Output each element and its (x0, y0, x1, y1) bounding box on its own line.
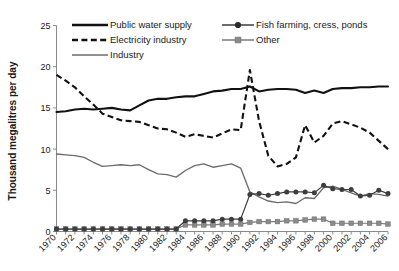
data-point-other (284, 218, 289, 223)
series-electricity-industry (57, 70, 389, 166)
y-tick-label: 20 (40, 62, 50, 72)
data-point-fish-farming (247, 192, 252, 197)
data-point-fish-farming (165, 227, 170, 232)
data-point-fish-farming (275, 191, 280, 196)
x-tick-label: 1984 (166, 232, 187, 253)
series-public-water-supply (57, 86, 389, 112)
data-point-other (275, 219, 280, 224)
data-point-fish-farming (63, 227, 68, 232)
data-point-fish-farming (238, 217, 243, 222)
data-point-fish-farming (155, 227, 160, 232)
data-point-other (238, 222, 243, 227)
data-point-other (349, 221, 354, 226)
data-point-fish-farming (321, 183, 326, 188)
x-tick-label: 2004 (350, 232, 371, 253)
data-point-fish-farming (220, 217, 225, 222)
x-tick-label: 2000 (313, 232, 334, 253)
legend-label: Other (256, 34, 280, 45)
data-point-other (294, 218, 299, 223)
y-tick-label: 5 (45, 186, 50, 196)
data-point-other (367, 221, 372, 226)
data-point-fish-farming (82, 227, 87, 232)
data-point-other (192, 223, 197, 228)
data-point-other (303, 218, 308, 223)
x-tick-label: 2002 (331, 232, 352, 253)
data-point-other (312, 217, 317, 222)
data-point-fish-farming (183, 218, 188, 223)
data-point-other (257, 219, 262, 224)
data-point-fish-farming (284, 189, 289, 194)
data-point-fish-farming (257, 191, 262, 196)
data-point-fish-farming (330, 186, 335, 191)
legend-label: Fish farming, cress, ponds (256, 19, 368, 30)
data-point-other (183, 223, 188, 228)
data-point-fish-farming (137, 227, 142, 232)
data-point-fish-farming (146, 227, 151, 232)
x-tick-label: 1974 (74, 232, 95, 253)
line-chart: Public water supplyElectricity industryI… (0, 0, 399, 271)
x-tick-label: 1994 (258, 232, 279, 253)
y-tick-label: 15 (40, 103, 50, 113)
data-point-fish-farming (118, 227, 123, 232)
x-tick-label: 1972 (55, 232, 76, 253)
data-point-fish-farming (358, 194, 363, 199)
data-point-other (376, 221, 381, 226)
x-tick-label: 1970 (37, 232, 58, 253)
data-point-fish-farming (109, 227, 114, 232)
data-point-fish-farming (91, 227, 96, 232)
data-point-fish-farming (100, 227, 105, 232)
data-point-other (211, 223, 216, 228)
x-tick-label: 1982 (147, 232, 168, 253)
legend-item: Electricity industry (72, 34, 187, 45)
y-tick-label: 10 (40, 145, 50, 155)
data-point-fish-farming (349, 187, 354, 192)
data-point-other (220, 222, 225, 227)
series-industry (57, 154, 389, 203)
data-point-fish-farming (293, 189, 298, 194)
y-axis-label: Thousand megalitres per day (7, 61, 18, 200)
chart-series (54, 70, 391, 232)
data-point-other (386, 222, 391, 227)
data-point-other (321, 217, 326, 222)
legend-item: Industry (72, 49, 144, 60)
x-tick-label: 1998 (295, 232, 316, 253)
legend-item: Public water supply (72, 19, 192, 30)
data-point-fish-farming (312, 190, 317, 195)
legend-item: Fish farming, cress, ponds (222, 19, 368, 30)
data-point-fish-farming (174, 227, 179, 232)
data-point-fish-farming (72, 227, 77, 232)
chart-legend: Public water supplyElectricity industryI… (72, 19, 368, 60)
chart-container: Public water supplyElectricity industryI… (0, 0, 399, 271)
data-point-other (229, 222, 234, 227)
data-point-fish-farming (54, 227, 59, 232)
legend-item: Other (222, 34, 280, 45)
data-point-other (266, 219, 271, 224)
data-point-other (202, 223, 207, 228)
x-tick-label: 1978 (110, 232, 131, 253)
x-tick-label: 1976 (92, 232, 113, 253)
data-point-other (248, 220, 253, 225)
data-point-fish-farming (386, 191, 391, 196)
data-point-other (330, 221, 335, 226)
x-tick-label: 1996 (276, 232, 297, 253)
data-point-fish-farming (128, 227, 133, 232)
legend-label: Public water supply (110, 19, 192, 30)
data-point-fish-farming (339, 187, 344, 192)
x-tick-label: 1980 (129, 232, 150, 253)
x-tick-label: 1992 (239, 232, 260, 253)
legend-label: Industry (110, 49, 144, 60)
data-point-other (340, 221, 345, 226)
x-tick-label: 1986 (184, 232, 205, 253)
data-point-fish-farming (211, 218, 216, 223)
data-point-fish-farming (367, 193, 372, 198)
data-point-fish-farming (266, 193, 271, 198)
data-point-fish-farming (201, 218, 206, 223)
x-tick-label: 2006 (368, 232, 389, 253)
data-point-other (358, 221, 363, 226)
data-point-fish-farming (229, 217, 234, 222)
data-point-fish-farming (303, 189, 308, 194)
y-tick-label: 25 (40, 21, 50, 31)
data-point-fish-farming (192, 218, 197, 223)
data-point-fish-farming (376, 188, 381, 193)
legend-label: Electricity industry (110, 34, 187, 45)
